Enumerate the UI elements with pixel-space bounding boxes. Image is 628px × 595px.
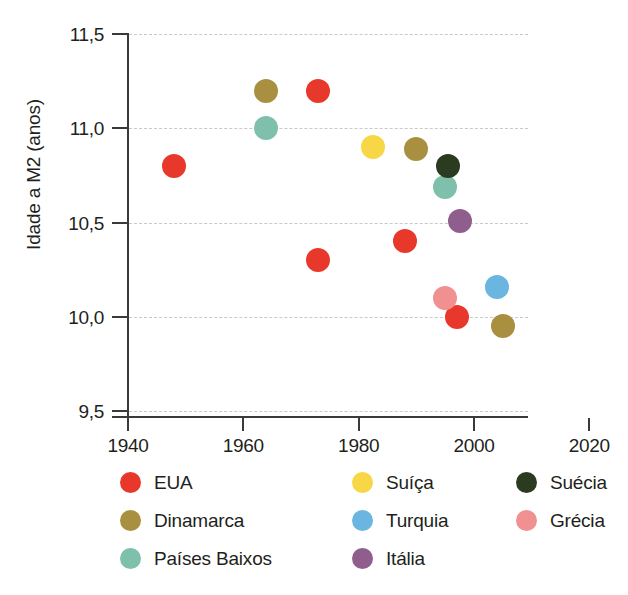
- legend-label: Suécia: [550, 472, 607, 493]
- legend-swatch-icon: [120, 510, 141, 531]
- y-axis-tick: [112, 33, 128, 35]
- x-axis-tick-label: 1960: [203, 436, 283, 455]
- y-axis-tick-label: 10,0: [38, 308, 104, 327]
- data-point: [433, 286, 457, 310]
- data-point: [306, 79, 330, 103]
- legend-label: Grécia: [550, 510, 605, 531]
- data-point: [254, 79, 278, 103]
- y-axis-tick: [112, 127, 128, 129]
- legend-item[interactable]: Itália: [352, 548, 425, 569]
- x-axis-tick-label: 2000: [434, 436, 514, 455]
- legend-swatch-icon: [516, 472, 537, 493]
- scatter-chart-figure: 11,511,010,510,09,5 19401960198020002020…: [0, 0, 628, 595]
- y-axis-tick-label: 11,0: [38, 119, 104, 138]
- legend-label: Itália: [386, 548, 425, 569]
- y-axis-tick-label: 10,5: [38, 214, 104, 233]
- legend-swatch-icon: [120, 548, 141, 569]
- legend-swatch-icon: [516, 510, 537, 531]
- data-point: [448, 209, 472, 233]
- legend-swatch-icon: [120, 472, 141, 493]
- legend-swatch-icon: [352, 548, 373, 569]
- x-axis-tick: [242, 418, 244, 431]
- data-point: [393, 229, 417, 253]
- data-point: [491, 314, 515, 338]
- legend-label: Dinamarca: [154, 510, 244, 531]
- x-axis-tick: [473, 418, 475, 431]
- y-axis-title: Idade a M2 (anos): [24, 75, 43, 275]
- legend-item[interactable]: EUA: [120, 472, 192, 493]
- chart-legend: EUADinamarcaPaíses BaixosSuíçaTurquiaItá…: [120, 472, 620, 587]
- x-axis-line: [112, 416, 528, 418]
- legend-swatch-icon: [352, 510, 373, 531]
- data-point: [433, 175, 457, 199]
- legend-item[interactable]: Suíça: [352, 472, 434, 493]
- legend-item[interactable]: Turquia: [352, 510, 448, 531]
- x-axis-tick: [127, 418, 129, 431]
- legend-item[interactable]: Países Baixos: [120, 548, 272, 569]
- data-point: [436, 154, 460, 178]
- data-point: [162, 154, 186, 178]
- y-axis-tick-label: 11,5: [38, 25, 104, 44]
- legend-swatch-icon: [352, 472, 373, 493]
- gridline: [129, 411, 528, 412]
- x-axis-tick-label: 1940: [88, 436, 168, 455]
- y-axis-tick: [112, 222, 128, 224]
- legend-item[interactable]: Dinamarca: [120, 510, 244, 531]
- x-axis-tick: [588, 418, 590, 431]
- data-point: [485, 275, 509, 299]
- y-axis-tick: [112, 410, 128, 412]
- legend-item[interactable]: Suécia: [516, 472, 607, 493]
- x-axis-tick-label: 2020: [549, 436, 628, 455]
- legend-label: Países Baixos: [154, 548, 272, 569]
- y-axis-tick: [112, 316, 128, 318]
- plot-area: [128, 34, 474, 411]
- legend-label: Suíça: [386, 472, 434, 493]
- legend-label: EUA: [154, 472, 192, 493]
- y-axis-tick-label: 9,5: [38, 402, 104, 421]
- x-axis-tick: [358, 418, 360, 431]
- legend-item[interactable]: Grécia: [516, 510, 605, 531]
- data-point: [361, 135, 385, 159]
- x-axis-tick-label: 1980: [319, 436, 399, 455]
- legend-label: Turquia: [386, 510, 448, 531]
